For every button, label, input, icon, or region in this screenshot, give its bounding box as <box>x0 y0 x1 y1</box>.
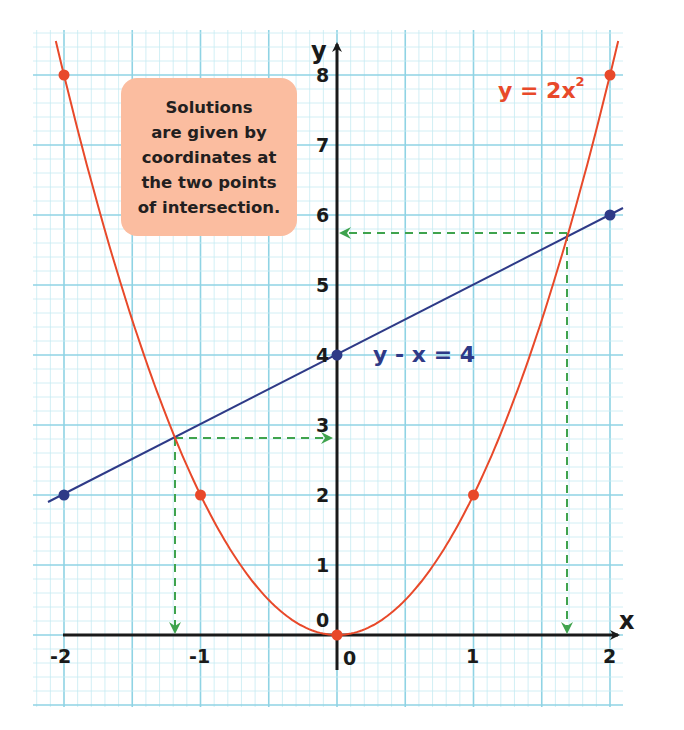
y-tick-7: 7 <box>316 134 329 156</box>
y-tick-3: 3 <box>316 414 329 436</box>
curve-point-2 <box>332 630 343 641</box>
x-tick-1: 1 <box>466 645 479 667</box>
curve-point-1 <box>195 490 206 501</box>
y-tick-labels: 8 7 6 5 4 3 2 1 0 <box>316 64 329 631</box>
curve-equation-text: y = 2x <box>498 78 576 103</box>
callout-line-3: coordinates at <box>142 145 277 170</box>
x-tick-0: 0 <box>343 647 356 669</box>
callout-line-4: the two points <box>141 170 276 195</box>
y-tick-6: 6 <box>316 204 329 226</box>
y-tick-2: 2 <box>316 484 329 506</box>
y-tick-8: 8 <box>316 64 329 86</box>
solutions-callout: Solutions are given by coordinates at th… <box>121 78 297 236</box>
x-tick-neg2: -2 <box>50 645 71 667</box>
x-axis-label: x <box>619 607 635 635</box>
curve-equation-label: y = 2x2 <box>498 74 585 103</box>
callout-line-1: Solutions <box>165 95 252 120</box>
line-point-2 <box>605 210 616 221</box>
curve-equation-exponent: 2 <box>576 74 585 89</box>
chart-canvas: 8 7 6 5 4 3 2 1 0 -2 -1 0 1 2 y x y = 2x… <box>0 0 684 730</box>
x-tick-2: 2 <box>603 645 616 667</box>
line-point-0 <box>59 490 70 501</box>
intersection-guides <box>175 233 567 632</box>
y-tick-1: 1 <box>316 554 329 576</box>
y-tick-4: 4 <box>316 344 329 366</box>
line-point-1 <box>332 350 343 361</box>
curve-point-3 <box>468 490 479 501</box>
y-tick-0: 0 <box>316 609 329 631</box>
x-tick-neg1: -1 <box>189 645 210 667</box>
y-axis-label: y <box>311 37 327 65</box>
callout-line-5: of intersection. <box>138 195 281 220</box>
curve-point-4 <box>605 70 616 81</box>
line-equation-label: y - x = 4 <box>373 342 475 367</box>
callout-line-2: are given by <box>151 120 267 145</box>
y-tick-5: 5 <box>316 274 329 296</box>
curve-point-0 <box>59 70 70 81</box>
